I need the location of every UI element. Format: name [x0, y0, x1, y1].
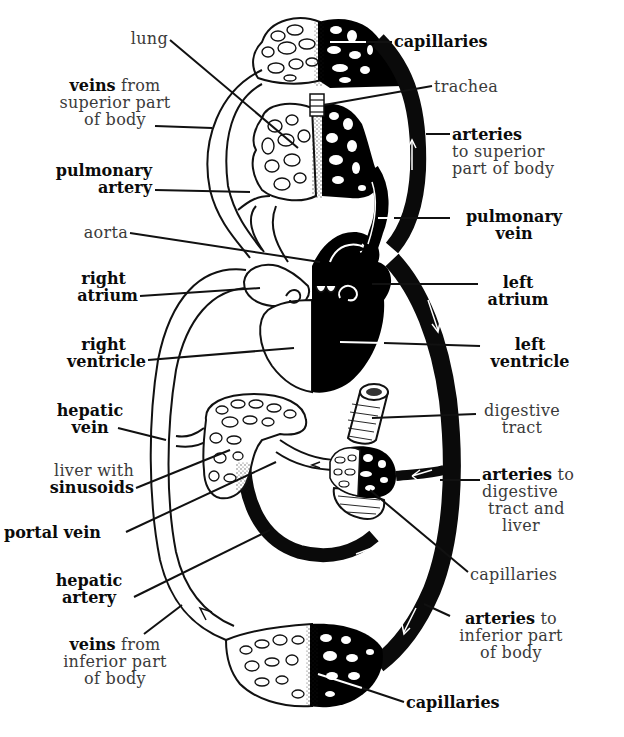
label-lung: lung: [100, 30, 168, 47]
liver: [203, 394, 338, 498]
heart: [244, 170, 391, 393]
label-pulmonary-artery: pulmonary artery: [40, 162, 152, 196]
trachea-illustration: [310, 94, 324, 116]
label-arteries-inferior: arteries to inferior part of body: [436, 610, 586, 661]
label-aorta: aorta: [60, 224, 128, 241]
lungs: [253, 94, 379, 200]
label-pulmonary-vein: pulmonary vein: [452, 208, 576, 242]
label-arteries-digestive: arteries to digestive tract and liver: [482, 466, 574, 534]
label-capillaries-bottom: capillaries: [406, 694, 500, 711]
label-hepatic-vein: hepatic vein: [50, 402, 130, 436]
label-portal-vein: portal vein: [4, 524, 101, 541]
label-arteries-superior: arteries to superior part of body: [452, 126, 554, 177]
label-liver-with-sinusoids: liver with sinusoids: [16, 462, 134, 496]
label-digestive-tract: digestive tract: [476, 402, 568, 436]
label-right-atrium: right atrium: [50, 270, 138, 304]
label-capillaries-mid: capillaries: [470, 566, 557, 583]
label-left-ventricle: left ventricle: [482, 336, 578, 370]
label-hepatic-artery: hepatic artery: [46, 572, 132, 606]
label-left-atrium: left atrium: [480, 274, 556, 308]
label-capillaries-top: capillaries: [394, 33, 488, 50]
label-veins-inferior: veins from inferior part of body: [40, 636, 190, 687]
label-right-ventricle: right ventricle: [40, 336, 146, 370]
label-veins-superior: veins from superior part of body: [30, 77, 200, 128]
label-trachea: trachea: [434, 78, 498, 95]
digestive-tract: [330, 384, 396, 519]
